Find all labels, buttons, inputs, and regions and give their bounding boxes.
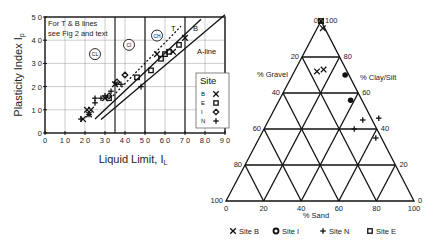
gravel-tick-label: 100 — [210, 196, 223, 205]
zone-label: CH — [153, 33, 161, 39]
legend-label: E — [201, 100, 205, 106]
annotation-text: For T & B lines — [48, 19, 98, 28]
y-tick-label: 3 0 — [32, 59, 42, 68]
plasticity-chart: 01 02 03 04 05 06 07 08 09 001 02 03 04 … — [12, 13, 230, 166]
sand-axis-label: % Sand — [303, 211, 329, 220]
site-b-point — [314, 69, 320, 75]
x-tick-label: 5 0 — [140, 136, 150, 145]
site-i-point — [342, 72, 348, 78]
site-n-point — [78, 116, 84, 122]
sand-tick-label: 100 — [408, 204, 421, 213]
zone-label: CL — [92, 51, 99, 57]
sand-tick-label: 20 — [259, 204, 267, 213]
ternary-outline — [226, 21, 414, 201]
legend-title: Site — [200, 75, 216, 86]
site-e-point — [149, 68, 153, 72]
clay-tick-label: 80 — [344, 52, 352, 61]
line-label: A-line — [197, 47, 216, 56]
sand-tick-label: 60 — [335, 204, 343, 213]
legend-label: Site I — [282, 227, 299, 236]
x-tick-label: 1 0 — [60, 136, 70, 145]
gravel-axis-label: % Gravel — [257, 70, 288, 79]
x-axis-label: Liquid Limit, IL — [99, 153, 168, 166]
site-e-point — [177, 43, 181, 47]
legend-diamond-icon — [274, 229, 279, 234]
site-n-point — [351, 126, 357, 132]
legend-label: Site B — [239, 227, 259, 236]
x-tick-label: 3 0 — [100, 136, 110, 145]
gravel-tick-label: 80 — [234, 160, 242, 169]
line-label: T — [171, 24, 176, 33]
y-axis-label: Plasticity Index Ip — [12, 33, 26, 116]
y-tick-label: 0 — [38, 129, 42, 138]
x-tick-label: 8 0 — [200, 136, 210, 145]
annotation-text: see Fig 2 and text — [48, 29, 109, 38]
clay-tick-label: 40 — [381, 124, 389, 133]
y-tick-label: 1 0 — [32, 106, 42, 115]
legend-label: B — [201, 91, 205, 97]
line-label: B — [193, 24, 198, 33]
clay-tick-label: 100 — [325, 16, 338, 25]
x-tick-label: 6 0 — [160, 136, 170, 145]
ternary-grid-line — [245, 165, 264, 201]
gravel-tick-label: 60 — [253, 124, 261, 133]
legend-x-icon — [230, 228, 236, 234]
x-tick-label: 4 0 — [120, 136, 130, 145]
site-i-point — [348, 97, 354, 103]
gravel-tick-label: 40 — [272, 88, 280, 97]
gravel-tick-label: 0 — [314, 16, 318, 25]
legend-plus-icon — [320, 228, 326, 234]
site-n-point — [360, 117, 366, 123]
site-n-point — [373, 135, 379, 141]
x-tick-label: 9 0 — [220, 136, 230, 145]
y-tick-label: 4 0 — [32, 36, 42, 45]
sand-tick-label: 80 — [372, 204, 380, 213]
x-tick-label: 7 0 — [180, 136, 190, 145]
y-tick-label: 2 0 — [32, 83, 42, 92]
legend-label: Site N — [329, 227, 349, 236]
site-n-point — [92, 95, 98, 101]
site-n-point — [376, 115, 382, 121]
ternary-diagram: 020406080100100806040200020406080100% Gr… — [210, 16, 422, 236]
ternary-grid-line — [376, 165, 395, 201]
x-tick-label: 0 — [43, 136, 47, 145]
site-b-point — [321, 67, 327, 73]
clay-tick-label: 60 — [362, 88, 370, 97]
sand-tick-label: 0 — [224, 204, 228, 213]
legend-square-icon — [368, 229, 372, 233]
gravel-tick-label: 20 — [291, 52, 299, 61]
chart-canvas: 01 02 03 04 05 06 07 08 09 001 02 03 04 … — [0, 0, 437, 247]
legend-label: N — [201, 118, 205, 124]
zone-label: CI — [127, 42, 132, 48]
clay-tick-label: 20 — [399, 160, 407, 169]
legend-label: Site E — [376, 227, 396, 236]
y-tick-label: 5 0 — [32, 13, 42, 22]
clay-axis-label: % Clay/Silt — [360, 73, 397, 82]
x-tick-label: 2 0 — [80, 136, 90, 145]
